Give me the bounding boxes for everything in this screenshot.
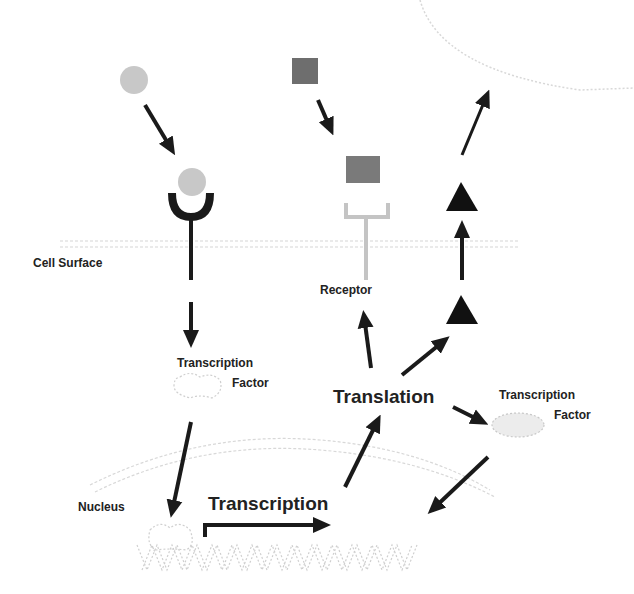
transcription-start-arrow [205, 525, 325, 537]
arrow-translation-to-receptor [364, 316, 371, 368]
cell-membrane [60, 241, 520, 247]
bound-transcription-factor-icon [149, 524, 192, 550]
nucleus-label: Nucleus [78, 500, 125, 514]
transcription-factor-right-line1: Transcription [499, 388, 575, 402]
arrow-to-nucleus [172, 422, 191, 512]
transcription-factor-left-line2: Factor [232, 376, 269, 390]
triangle-secreted-icon [446, 182, 478, 211]
translation-label: Translation [333, 386, 434, 408]
cell-surface-label: Cell Surface [33, 256, 102, 270]
circle-ligand-icon [120, 66, 148, 94]
arrow-secretion [462, 95, 487, 155]
arrow-translation-to-triangle [402, 340, 445, 375]
arrow-ligand-to-receptor [145, 105, 172, 150]
dark-receptor-icon [172, 193, 210, 280]
nuclear-membrane [90, 438, 495, 497]
receptor-label: Receptor [320, 283, 372, 297]
square-ligand-icon [292, 58, 318, 84]
transcription-factor-right-line2: Factor [554, 408, 591, 422]
square-ligand-bound-icon [346, 156, 380, 183]
transcription-factor-new-icon [492, 413, 544, 437]
triangle-new-icon [446, 295, 478, 324]
arrow-tf-to-dna [432, 457, 488, 510]
cell-boundary-arc [420, 0, 634, 90]
arrow-translation-to-tf [453, 407, 483, 422]
transcription-factor-inactive-icon [174, 374, 221, 399]
arrow-square-to-receptor [318, 100, 331, 130]
circle-ligand-bound-icon [178, 168, 206, 196]
transcription-factor-left-line1: Transcription [177, 356, 253, 370]
transcription-label: Transcription [208, 493, 328, 515]
dna-helix-icon [137, 545, 417, 570]
